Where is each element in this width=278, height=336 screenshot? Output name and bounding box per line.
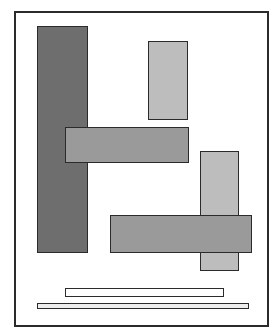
thin-bar-lower <box>37 303 249 309</box>
medium-horizontal-rect-bottom <box>110 215 252 253</box>
medium-horizontal-rect-top <box>65 127 189 163</box>
light-vertical-rect-top <box>148 41 188 120</box>
thin-bar-upper <box>65 288 224 297</box>
light-vertical-rect-right <box>200 151 239 271</box>
